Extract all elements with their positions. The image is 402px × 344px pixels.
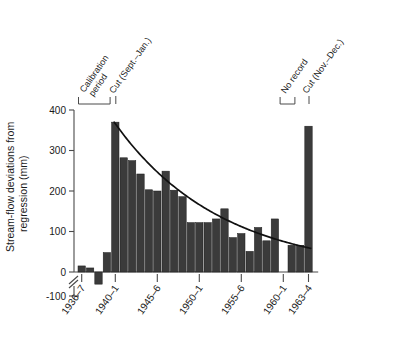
annotation-group: CalibrationperiodCut (Sept.–Jan.)No reco… [78, 36, 346, 104]
annotation-text: Cut (Sept.–Jan.) [107, 36, 153, 95]
bar [238, 234, 245, 272]
x-tick-label-1945–6: 1945–6 [135, 282, 163, 316]
bar [103, 253, 110, 272]
y-tick-label--100: -100 [46, 291, 66, 302]
bar [145, 190, 152, 272]
bar-series [78, 122, 312, 284]
annotation-no-record: No record [279, 57, 310, 104]
y-tick-label-400: 400 [49, 105, 66, 116]
bar [78, 266, 85, 272]
bar [86, 268, 93, 272]
x-tick-label-1955–6: 1955–6 [219, 282, 247, 316]
x-tick-label-1940–1: 1940–1 [93, 282, 121, 316]
y-axis-title-line2: regression (mm) [17, 156, 29, 232]
y-tick-label-100: 100 [49, 226, 66, 237]
annotation-cut-nov-dec: Cut (Nov.–Dec.) [300, 37, 345, 104]
chart-figure: Stream-flow deviations from regression (… [0, 0, 402, 344]
x-tick-label-1950–1: 1950–1 [177, 282, 205, 316]
bar [246, 251, 253, 272]
bar [187, 223, 194, 272]
bar [170, 190, 177, 272]
bar [212, 219, 219, 272]
bar [137, 174, 144, 272]
bar [128, 161, 135, 272]
chart-svg: Stream-flow deviations from regression (… [0, 0, 402, 344]
bar [95, 272, 102, 284]
bar [305, 126, 312, 272]
bar [154, 191, 161, 272]
bar [204, 223, 211, 272]
bar [263, 241, 270, 272]
bar [229, 238, 236, 272]
bar [120, 158, 127, 272]
x-tick-label-1960–1: 1960–1 [261, 282, 289, 316]
bar [196, 223, 203, 272]
bar [296, 245, 303, 272]
y-axis-title-line1: Stream-flow deviations from [4, 122, 16, 252]
bar [271, 219, 278, 272]
y-tick-label-0: 0 [60, 267, 66, 278]
x-tick-label-1963–4: 1963–4 [286, 282, 314, 316]
bar [179, 197, 186, 272]
bar [112, 122, 119, 272]
bar [162, 171, 169, 272]
annotation-calibration-period: Calibrationperiod [78, 53, 111, 104]
y-axis-title: Stream-flow deviations from regression (… [4, 122, 29, 252]
y-tick-label-200: 200 [49, 186, 66, 197]
annotation-cut-sept-jan: Cut (Sept.–Jan.) [107, 36, 153, 104]
bar [288, 245, 295, 272]
y-tick-label-300: 300 [49, 145, 66, 156]
